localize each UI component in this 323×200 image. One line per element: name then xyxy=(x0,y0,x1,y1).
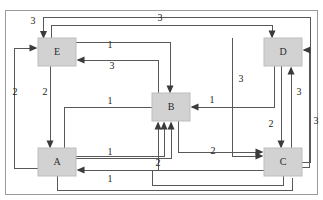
edge-label-d-to-b: 1 xyxy=(210,94,215,105)
edge-label-a-to-b-lower: 1 xyxy=(108,146,113,157)
edge-label-d-to-c-upper: 3 xyxy=(239,73,244,84)
graph-diagram: E D B A C 3 3 1 3 2 xyxy=(0,0,323,200)
edge-d-to-c-upper xyxy=(232,38,264,160)
edge-e-to-d xyxy=(51,25,276,39)
edge-e-to-b xyxy=(76,42,174,94)
edge-label-a-to-b-upper: 1 xyxy=(108,95,113,106)
node-b[interactable]: B xyxy=(152,93,190,121)
edge-a-bottom-return xyxy=(57,176,292,190)
edge-b-to-c xyxy=(178,121,264,156)
edge-label-b-to-c: 2 xyxy=(211,145,216,156)
graph-canvas: E D B A C 3 3 1 3 2 xyxy=(0,0,323,200)
node-d[interactable]: D xyxy=(264,38,302,66)
node-e-label: E xyxy=(54,46,60,57)
edge-a-to-e xyxy=(14,45,38,169)
edge-label-c-to-a: 1 xyxy=(108,173,113,184)
node-e[interactable]: E xyxy=(38,38,76,66)
edge-label-d-to-c-lower: 2 xyxy=(269,118,274,129)
edge-label-c-to-d-outer: 3 xyxy=(314,115,319,126)
edge-label-a-to-e: 2 xyxy=(13,86,18,97)
edge-label-e-to-b: 1 xyxy=(108,39,113,50)
edge-label-b-to-e: 3 xyxy=(110,60,115,71)
edge-label-c-to-d-inner: 3 xyxy=(297,86,302,97)
node-a[interactable]: A xyxy=(38,148,76,176)
edge-c-to-a xyxy=(77,167,265,174)
edge-b-to-e xyxy=(77,57,159,94)
edge-label-e-to-d: 3 xyxy=(158,12,163,23)
node-c[interactable]: C xyxy=(264,148,302,176)
edge-d-to-c-lower xyxy=(278,66,285,149)
edge-label-e-to-a: 2 xyxy=(43,86,48,97)
edge-label-c-to-b: 2 xyxy=(156,157,161,168)
edge-c-to-b xyxy=(152,122,283,186)
node-b-label: B xyxy=(168,101,175,112)
node-d-label: D xyxy=(279,46,286,57)
edge-e-to-a xyxy=(47,66,54,149)
edge-label-c-to-e: 3 xyxy=(31,15,36,26)
node-c-label: C xyxy=(280,156,287,167)
node-a-label: A xyxy=(53,156,61,167)
edge-c-to-d-inner xyxy=(288,67,295,149)
